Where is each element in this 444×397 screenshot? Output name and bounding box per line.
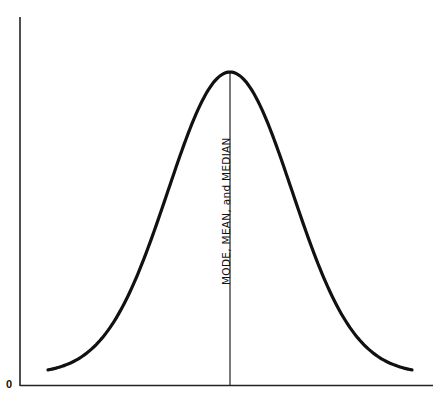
- origin-label: 0: [6, 378, 12, 390]
- mode-mean-median-label: MODE, MEAN, and MEDIAN: [220, 137, 232, 285]
